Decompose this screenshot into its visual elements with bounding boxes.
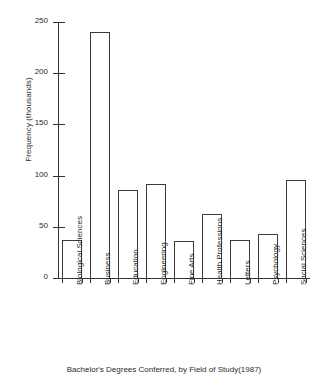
y-tick: 50 (53, 227, 65, 228)
x-tick (90, 279, 91, 283)
y-tick-label: 0 (44, 272, 48, 281)
x-tick (258, 279, 259, 283)
y-tick: 250 (53, 22, 65, 23)
x-tick (118, 279, 119, 283)
x-tick (202, 279, 203, 283)
x-category-label: Education (131, 249, 140, 285)
y-axis-title: Frequency (thousands) (24, 30, 33, 210)
x-category-label: Fine Arts (187, 253, 196, 285)
x-category-label: Health Professions (215, 218, 224, 285)
y-axis-line (58, 22, 59, 278)
x-tick (62, 279, 63, 283)
y-tick-label: 200 (35, 67, 48, 76)
x-category-label: Business (103, 253, 112, 285)
y-tick: 100 (53, 176, 65, 177)
plot-area: 050100150200250 (58, 22, 310, 278)
x-tick (146, 279, 147, 283)
bar-chart-figure: Frequency (thousands) 050100150200250 Bi… (0, 0, 328, 385)
x-category-label: Engineering (159, 242, 168, 285)
x-tick (286, 279, 287, 283)
chart-caption: Bachelor's Degrees Conferred, by Field o… (0, 365, 328, 374)
y-tick: 200 (53, 73, 65, 74)
x-category-label: Letters (243, 261, 252, 285)
x-tick (230, 279, 231, 283)
x-category-label: Social Sciences (299, 229, 308, 285)
x-tick (174, 279, 175, 283)
y-tick-label: 50 (39, 221, 48, 230)
y-tick-label: 250 (35, 16, 48, 25)
x-category-label: Biological Sciences (75, 216, 84, 285)
y-tick-label: 100 (35, 170, 48, 179)
y-tick: 150 (53, 124, 65, 125)
y-tick-label: 150 (35, 118, 48, 127)
y-tick: 0 (53, 278, 65, 279)
x-category-label: Psychology (271, 244, 280, 285)
bar (90, 32, 110, 278)
